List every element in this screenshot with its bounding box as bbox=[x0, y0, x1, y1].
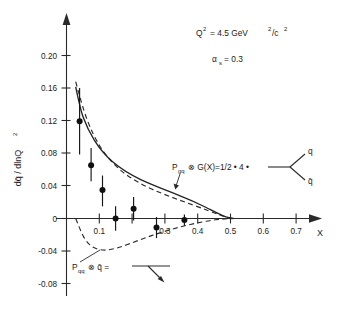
y-axis-title: dq̄ / dlnQ 2 bbox=[12, 133, 23, 187]
q2-equals: = 4.5 GeV bbox=[210, 28, 248, 38]
lower-label-rest: ⊗ q̄ = bbox=[88, 262, 109, 272]
y-tick-label-3: 0.08 bbox=[41, 149, 57, 158]
x-axis-title: X bbox=[317, 228, 323, 238]
y-axis-arrowhead bbox=[63, 13, 71, 25]
data-point-1 bbox=[88, 148, 94, 181]
alpha-subscript: s bbox=[219, 60, 222, 66]
y-axis-title-exponent: 2 bbox=[12, 133, 18, 136]
q2-base: Q bbox=[196, 28, 203, 38]
x-tick-group: 0.1 0.3 0.4 0.5 0.6 0.7 bbox=[94, 214, 303, 237]
q2-c-superscript: 2 bbox=[284, 26, 287, 32]
annotation-lower-curve: P qq ⊗ q̄ = bbox=[72, 250, 170, 283]
x-tick-label-0: 0.1 bbox=[94, 227, 106, 236]
data-point-3 bbox=[113, 206, 119, 230]
y-tick-label-7: -0.08 bbox=[38, 280, 57, 289]
annotation-alpha-s: α s = 0.3 bbox=[212, 54, 243, 66]
y-tick-label-4: 0.04 bbox=[41, 182, 57, 191]
x-axis bbox=[56, 214, 322, 223]
upper-label-P-subscript: gq bbox=[178, 168, 185, 174]
alpha-base: α bbox=[212, 54, 217, 64]
feynman-diagram-gluon-emission bbox=[132, 266, 170, 283]
plot-svg: 0.20 0.16 0.12 0.08 0.04 0 -0.04 -0.08 0… bbox=[0, 0, 338, 328]
y-tick-label-2: 0.12 bbox=[41, 117, 57, 126]
y-tick-label-5: 0 bbox=[52, 215, 57, 224]
data-point-2 bbox=[100, 176, 106, 207]
x-tick-label-5: 0.6 bbox=[258, 227, 270, 236]
x-axis-arrowhead bbox=[309, 214, 322, 223]
upper-label-leader bbox=[176, 174, 180, 186]
curve-p-gq-gluon bbox=[76, 82, 234, 219]
q2-superscript: 2 bbox=[203, 26, 206, 32]
annotation-q-squared: Q 2 = 4.5 GeV 2 /c 2 bbox=[196, 26, 287, 38]
y-tick-label-0: 0.20 bbox=[41, 52, 57, 61]
antiquark-label: q̄ bbox=[308, 176, 313, 186]
annotation-upper-curve: P gq ⊗ G(X)=1/2 • 4 • q q̄ bbox=[172, 146, 313, 190]
data-point-6 bbox=[181, 214, 187, 225]
lower-label-leader bbox=[80, 250, 100, 262]
feynman-diagram-qqbar: q q̄ bbox=[268, 146, 313, 186]
y-tick-group: 0.20 0.16 0.12 0.08 0.04 0 -0.04 -0.08 bbox=[38, 52, 70, 289]
y-tick-label-6: -0.04 bbox=[38, 247, 57, 256]
x-tick-label-6: 0.7 bbox=[290, 227, 302, 236]
figure-panel: 0.20 0.16 0.12 0.08 0.04 0 -0.04 -0.08 0… bbox=[0, 0, 338, 328]
y-axis-title-text: dq̄ / dlnQ bbox=[13, 150, 23, 187]
lower-label-P-subscript: qq bbox=[78, 268, 85, 274]
alpha-equals: = 0.3 bbox=[224, 54, 243, 64]
y-tick-label-1: 0.16 bbox=[41, 84, 57, 93]
q2-gev-superscript: 2 bbox=[268, 26, 271, 32]
q2-slash-c: /c bbox=[272, 28, 279, 38]
data-point-4 bbox=[131, 197, 137, 221]
upper-label-rest: ⊗ G(X)=1/2 • 4 • bbox=[188, 162, 249, 172]
x-tick-label-4: 0.5 bbox=[225, 227, 237, 236]
curve-total bbox=[76, 87, 234, 219]
x-tick-label-3: 0.4 bbox=[192, 227, 204, 236]
quark-label: q bbox=[308, 146, 313, 156]
